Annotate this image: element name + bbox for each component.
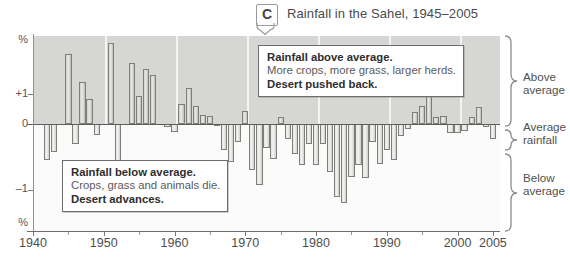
- y-tick-mark-minus1: [28, 190, 33, 191]
- bar-1980: [313, 124, 319, 165]
- bar-1968: [228, 124, 234, 162]
- bar-1994: [412, 112, 418, 124]
- x-axis-line: [27, 231, 500, 232]
- bar-1971: [249, 124, 255, 170]
- bar-1999: [447, 124, 453, 133]
- y-axis-line: [33, 34, 34, 232]
- bar-1991: [391, 124, 397, 160]
- bar-1964: [200, 115, 206, 124]
- bar-1960: [171, 124, 177, 132]
- bar-1988: [369, 124, 375, 142]
- bar-2002: [469, 117, 475, 124]
- bar-1943: [51, 124, 57, 152]
- side-label-above-line2: average: [523, 84, 565, 97]
- bar-1978: [299, 124, 305, 165]
- bar-1974: [270, 124, 276, 159]
- bar-1995: [419, 106, 425, 124]
- bar-1973: [263, 124, 269, 148]
- side-brace-icon: [498, 34, 524, 234]
- callout-above-line2: More crops, more grass, larger herds.: [267, 64, 456, 77]
- bar-1979: [306, 124, 312, 144]
- x-axis-label-1980: 1980: [302, 236, 330, 250]
- bar-1990: [384, 124, 390, 150]
- callout-above-line1: Rainfall above average.: [267, 51, 456, 64]
- bar-1997: [433, 117, 439, 124]
- bar-1976: [285, 124, 291, 139]
- x-axis-label-2005: 2005: [479, 236, 507, 250]
- bar-1961: [178, 104, 184, 124]
- bar-1942: [44, 124, 50, 160]
- figure-header: C Rainfall in the Sahel, 1945–2005: [0, 2, 570, 28]
- x-axis-label-1970: 1970: [231, 236, 259, 250]
- badge-pointer-icon: [256, 23, 276, 35]
- bar-1998: [440, 116, 446, 124]
- side-label-average-line2: rainfall: [523, 134, 557, 147]
- bar-1945: [65, 54, 71, 124]
- bar-1989: [377, 124, 383, 164]
- x-axis-label-1960: 1960: [161, 236, 189, 250]
- bar-1982: [327, 124, 333, 172]
- bar-1962: [186, 88, 192, 124]
- side-label-above-line1: Above: [523, 71, 556, 84]
- y-axis-tick-minus1: –1: [4, 182, 28, 194]
- x-tick-minor-1975: [281, 232, 282, 235]
- x-tick-minor-1945: [68, 232, 69, 235]
- bar-1969: [235, 124, 241, 142]
- rainfall-sahel-figure: C Rainfall in the Sahel, 1945–2005 % +1 …: [0, 0, 570, 265]
- bar-1977: [292, 124, 298, 154]
- callout-below-average: Rainfall below average. Crops, grass and…: [62, 160, 228, 212]
- bar-1983: [334, 124, 340, 197]
- x-tick-minor-1955: [139, 232, 140, 235]
- side-label-below-line1: Below: [523, 172, 555, 185]
- gridline-1950: [105, 36, 107, 124]
- bar-2003: [476, 107, 482, 124]
- x-axis-label-1990: 1990: [373, 236, 401, 250]
- bar-1949: [94, 124, 100, 135]
- bar-1947: [79, 82, 85, 124]
- bar-1955: [136, 96, 142, 124]
- bar-2000: [454, 124, 460, 133]
- y-axis-unit-bottom: %: [12, 216, 28, 228]
- bar-1985: [348, 124, 354, 177]
- bar-1967: [221, 124, 227, 150]
- bar-1948: [86, 99, 92, 124]
- callout-below-line2: Crops, grass and animals die.: [71, 179, 220, 192]
- x-axis-label-2000: 2000: [444, 236, 472, 250]
- bar-1987: [362, 124, 368, 178]
- x-tick-minor-1985: [351, 232, 352, 235]
- bar-1956: [143, 69, 149, 124]
- bar-1963: [193, 106, 199, 124]
- bar-1965: [207, 116, 213, 124]
- bar-1986: [355, 124, 361, 165]
- callout-above-average: Rainfall above average. More crops, more…: [258, 45, 464, 97]
- bar-1946: [72, 124, 78, 144]
- bar-1970: [242, 111, 248, 124]
- bar-1954: [129, 63, 135, 124]
- x-tick-minor-1995: [422, 232, 423, 235]
- side-label-below-line2: average: [523, 185, 565, 198]
- bar-1981: [320, 124, 326, 144]
- bar-1972: [256, 124, 262, 185]
- bar-1984: [341, 124, 347, 203]
- x-axis-label-1940: 1940: [19, 236, 47, 250]
- bar-1951: [108, 43, 114, 124]
- bar-1996: [426, 96, 432, 124]
- y-axis-tick-plus1: +1: [4, 87, 28, 99]
- x-tick-minor-1965: [210, 232, 211, 235]
- bar-1957: [150, 75, 156, 124]
- bar-1975: [278, 117, 284, 124]
- bar-2005: [490, 124, 496, 139]
- y-tick-mark-plus1: [28, 94, 33, 95]
- bar-1992: [398, 124, 404, 136]
- y-axis-unit-top: %: [12, 33, 28, 45]
- callout-below-line3: Desert advances.: [71, 193, 220, 206]
- zero-axis-line: [27, 124, 500, 125]
- side-label-average-line1: Average: [523, 121, 566, 134]
- callout-above-line3: Desert pushed back.: [267, 78, 456, 91]
- y-axis-tick-zero: 0: [4, 117, 28, 129]
- x-axis-label-1950: 1950: [90, 236, 118, 250]
- callout-below-line1: Rainfall below average.: [71, 166, 220, 179]
- figure-title: Rainfall in the Sahel, 1945–2005: [287, 6, 478, 21]
